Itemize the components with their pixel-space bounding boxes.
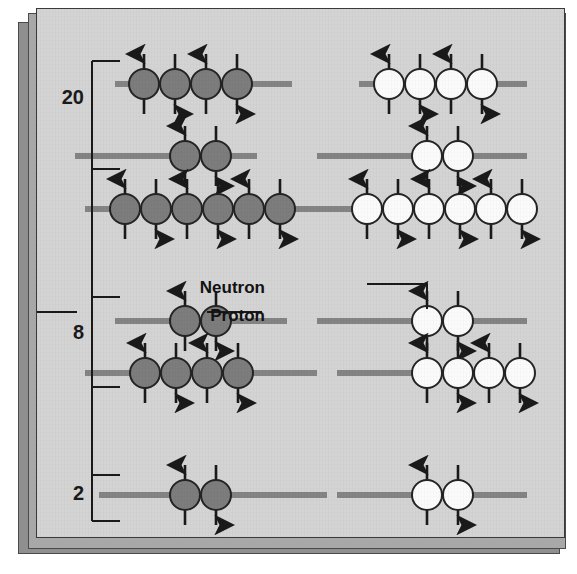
level-20-a-neutron-2 [436,69,466,99]
magic-number-label-20: 20 [62,86,84,108]
level-8-b-proton-0 [130,358,160,388]
level-8-b-proton-3 [223,358,253,388]
figure-root: 2082NeutronProton [0,0,577,574]
level-8-a-proton-0 [170,306,200,336]
level-20-c-neutron-1 [383,194,413,224]
level-2-neutron-0 [412,480,442,510]
level-8-b-proton-2 [192,358,222,388]
diagram-stage: 2082NeutronProton [37,9,564,537]
level-8-b-proton-1 [161,358,191,388]
level-8-a-neutron-1 [443,306,473,336]
level-8-b-neutron-1 [443,358,473,388]
neutron-label: Neutron [200,278,265,297]
level-20-c-neutron-2 [414,194,444,224]
level-20-c-proton-3 [203,194,233,224]
level-20-c-neutron-3 [445,194,475,224]
level-20-c-proton-1 [141,194,171,224]
level-20-b-proton-0 [170,141,200,171]
level-20-b-proton-1 [201,141,231,171]
level-20-a-proton-3 [222,69,252,99]
level-20-a-proton-2 [191,69,221,99]
level-20-a-proton-0 [129,69,159,99]
level-20-c-neutron-4 [476,194,506,224]
level-20-a-neutron-1 [405,69,435,99]
level-20-c-neutron-5 [507,194,537,224]
level-8-a-neutron-0 [412,306,442,336]
magic-number-label-8: 8 [73,321,84,343]
proton-label: Proton [210,306,265,325]
level-2-neutron-1 [443,480,473,510]
level-20-c-proton-4 [234,194,264,224]
level-20-a-neutron-0 [374,69,404,99]
shell-model-svg: 2082NeutronProton [37,9,564,537]
level-20-c-proton-0 [110,194,140,224]
level-20-c-proton-5 [265,194,295,224]
magic-number-label-2: 2 [73,482,84,504]
level-20-b-neutron-1 [443,141,473,171]
neutron-leader-line [367,284,427,309]
level-8-b-neutron-0 [412,358,442,388]
level-20-a-neutron-3 [467,69,497,99]
level-20-c-proton-2 [172,194,202,224]
level-20-c-neutron-0 [352,194,382,224]
level-20-a-proton-1 [160,69,190,99]
level-8-b-neutron-3 [505,358,535,388]
level-2-proton-0 [170,480,200,510]
level-2-proton-1 [201,480,231,510]
level-20-b-neutron-0 [412,141,442,171]
level-8-b-neutron-2 [474,358,504,388]
diagram-card: 2082NeutronProton [36,8,565,538]
